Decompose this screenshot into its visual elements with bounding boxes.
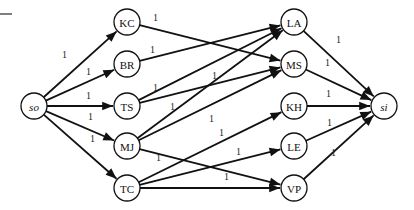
- node-label: KC: [119, 17, 134, 29]
- node-label: LA: [287, 17, 302, 29]
- node-la: LA: [281, 9, 307, 35]
- edge-ts-la: [139, 28, 282, 100]
- edges-layer: [44, 25, 374, 188]
- edge-so-kc: [44, 31, 117, 97]
- node-label: TS: [121, 101, 134, 113]
- edge-so-tc: [44, 115, 117, 179]
- node-label: so: [29, 101, 39, 113]
- edge-weight-label: 1: [153, 12, 158, 23]
- edge-weight-label: 1: [326, 88, 331, 99]
- node-ms: MS: [281, 51, 307, 77]
- edge-weight-label: 1: [212, 70, 217, 81]
- edge-weight-label: 1: [153, 82, 158, 93]
- node-label: TC: [120, 183, 134, 195]
- edge-weight-label: 1: [209, 113, 214, 124]
- node-label: KH: [286, 101, 302, 113]
- edge-mj-ms: [139, 70, 282, 140]
- edge-weight-label: 1: [86, 90, 91, 101]
- edge-weight-label: 1: [86, 66, 91, 77]
- edge-weight-label: 1: [327, 117, 332, 128]
- node-ts: TS: [114, 93, 140, 119]
- edge-weight-label: 1: [331, 147, 336, 158]
- node-label: VP: [287, 183, 301, 195]
- edge-weight-label: 1: [150, 44, 155, 55]
- node-label: MJ: [120, 141, 135, 153]
- node-tc: TC: [114, 175, 140, 201]
- node-le: LE: [281, 133, 307, 159]
- node-label: LE: [287, 141, 301, 153]
- node-mj: MJ: [114, 133, 140, 159]
- node-kc: KC: [114, 9, 140, 35]
- node-si: si: [371, 93, 397, 119]
- edge-weight-label: 1: [219, 127, 224, 138]
- node-br: BR: [114, 51, 140, 77]
- edge-weight-label: 1: [156, 152, 161, 163]
- edge-weight-label: 1: [236, 146, 241, 157]
- edge-weight-label: 1: [62, 49, 67, 60]
- node-label: BR: [120, 59, 135, 71]
- node-kh: KH: [281, 93, 307, 119]
- node-vp: VP: [281, 175, 307, 201]
- edge-weight-label: 1: [336, 34, 341, 45]
- edge-vp-si: [304, 115, 374, 179]
- node-so: so: [21, 93, 47, 119]
- node-label: si: [380, 101, 387, 113]
- edge-weight-label: 1: [224, 171, 229, 182]
- edge-weight-label: 1: [90, 133, 95, 144]
- node-label: MS: [286, 59, 302, 71]
- edge-weight-label: 1: [325, 57, 330, 68]
- flow-network-diagram: 11111111111111111111 soKCBRTSMJTCLAMSKHL…: [0, 0, 414, 210]
- edge-weight-label: 1: [88, 111, 93, 122]
- edge-weight-label: 1: [170, 101, 175, 112]
